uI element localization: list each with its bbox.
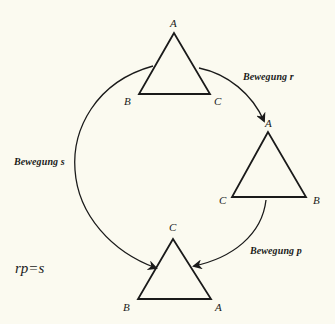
arrow-motion-s	[75, 66, 156, 268]
arrow-motion-p	[194, 200, 266, 266]
label-motion-r: Bewegung r	[243, 72, 294, 82]
label-bottom-apex: C	[169, 222, 176, 233]
label-right-bottom-right: B	[313, 195, 320, 206]
label-motion-p: Bewegung p	[250, 246, 302, 256]
label-right-apex: A	[265, 118, 272, 129]
triangle-top	[139, 33, 210, 94]
label-bottom-bottom-left: B	[123, 302, 130, 313]
label-top-bottom-right: C	[214, 96, 221, 107]
equation-label: rp=s	[15, 261, 44, 276]
label-right-bottom-left: C	[219, 195, 226, 206]
label-top-apex: A	[170, 18, 177, 29]
label-bottom-bottom-right: A	[215, 302, 222, 313]
label-top-bottom-left: B	[124, 96, 131, 107]
triangle-bottom	[138, 239, 211, 299]
triangle-right	[232, 132, 306, 197]
label-motion-s: Bewegung s	[14, 157, 65, 167]
